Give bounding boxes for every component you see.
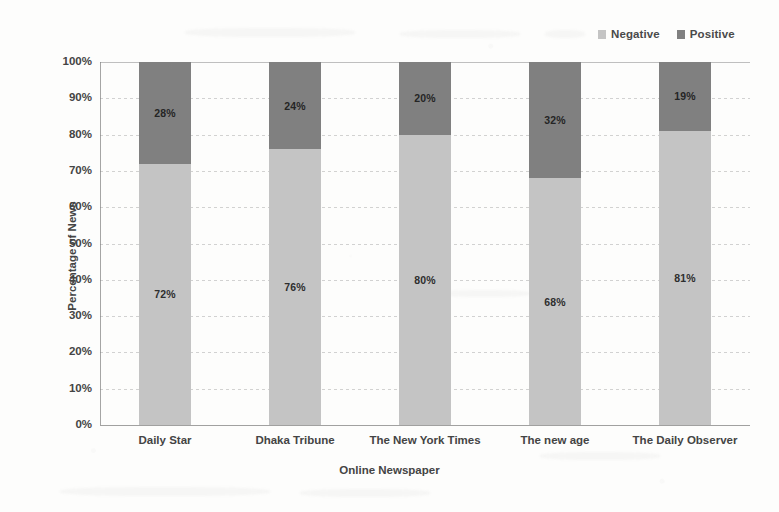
bar-stack: 32%68% bbox=[529, 62, 581, 425]
y-axis-tick-label: 20% bbox=[42, 345, 92, 357]
y-axis-title: Percentage of News bbox=[66, 201, 78, 310]
y-axis-tick-label: 100% bbox=[42, 55, 92, 67]
legend-swatch-negative bbox=[598, 30, 606, 39]
bar-stack: 28%72% bbox=[139, 62, 191, 425]
scan-artifact bbox=[300, 489, 430, 497]
bar-group[interactable]: 28%72% bbox=[139, 62, 191, 425]
x-axis-title: Online Newspaper bbox=[0, 464, 779, 476]
y-axis-tick-label: 70% bbox=[42, 164, 92, 176]
bar-segment-positive[interactable]: 24% bbox=[269, 62, 321, 149]
bar-value-label: 76% bbox=[284, 281, 306, 293]
y-axis-tick-label: 80% bbox=[42, 128, 92, 140]
chart-legend: Negative Positive bbox=[598, 28, 735, 40]
bar-segment-positive[interactable]: 28% bbox=[139, 62, 191, 164]
scan-artifact bbox=[540, 452, 660, 460]
bar-value-label: 81% bbox=[674, 272, 696, 284]
legend-label-positive: Positive bbox=[690, 28, 735, 40]
bar-value-label: 80% bbox=[414, 274, 436, 286]
y-axis-line bbox=[100, 62, 101, 425]
y-axis-tick-label: 0% bbox=[42, 418, 92, 430]
bar-segment-negative[interactable]: 76% bbox=[269, 149, 321, 425]
bar-segment-positive[interactable]: 19% bbox=[659, 62, 711, 131]
bar-segment-negative[interactable]: 81% bbox=[659, 131, 711, 425]
scan-artifact bbox=[545, 30, 585, 38]
bar-segment-negative[interactable]: 80% bbox=[399, 135, 451, 425]
bar-group[interactable]: 24%76% bbox=[269, 62, 321, 425]
plot-area: 28%72%24%76%20%80%32%68%19%81% bbox=[100, 62, 750, 425]
scan-artifact bbox=[185, 28, 355, 37]
y-axis-tick-label: 30% bbox=[42, 309, 92, 321]
bar-value-label: 68% bbox=[544, 296, 566, 308]
bar-segment-negative[interactable]: 68% bbox=[529, 178, 581, 425]
bar-value-label: 72% bbox=[154, 288, 176, 300]
bar-segment-positive[interactable]: 20% bbox=[399, 62, 451, 135]
bar-stack: 24%76% bbox=[269, 62, 321, 425]
bar-value-label: 28% bbox=[154, 107, 176, 119]
bar-segment-negative[interactable]: 72% bbox=[139, 164, 191, 425]
bar-value-label: 24% bbox=[284, 100, 306, 112]
y-axis-tick-label: 10% bbox=[42, 382, 92, 394]
gridline bbox=[100, 425, 750, 426]
bar-value-label: 20% bbox=[414, 92, 436, 104]
y-axis-tick-label: 90% bbox=[42, 91, 92, 103]
scan-artifact bbox=[60, 487, 270, 496]
legend-label-negative: Negative bbox=[611, 28, 660, 40]
legend-swatch-positive bbox=[677, 30, 685, 39]
bar-segment-positive[interactable]: 32% bbox=[529, 62, 581, 178]
bar-group[interactable]: 20%80% bbox=[399, 62, 451, 425]
scan-artifact bbox=[400, 30, 520, 38]
bar-value-label: 19% bbox=[674, 90, 696, 102]
bar-group[interactable]: 32%68% bbox=[529, 62, 581, 425]
x-axis-tick-label: The Daily Observer bbox=[605, 434, 765, 446]
bar-value-label: 32% bbox=[544, 114, 566, 126]
bar-group[interactable]: 19%81% bbox=[659, 62, 711, 425]
legend-item-positive[interactable]: Positive bbox=[677, 28, 735, 40]
legend-item-negative[interactable]: Negative bbox=[598, 28, 660, 40]
bar-stack: 19%81% bbox=[659, 62, 711, 425]
bar-stack: 20%80% bbox=[399, 62, 451, 425]
